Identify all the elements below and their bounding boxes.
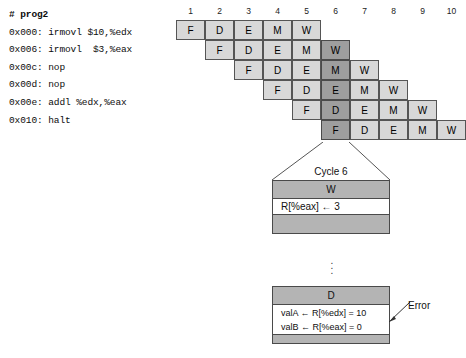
pipeline-stage-cell: F — [263, 80, 292, 100]
cycle-column-header: 7 — [350, 6, 379, 16]
decode-stage-name: D — [273, 287, 389, 305]
pipeline-stage-cell: W — [350, 60, 379, 80]
cycle-column-header: 9 — [408, 6, 437, 16]
decode-stage-detail-box: D valA ← R[%edx] = 10 valB ← R[%eax] = 0 — [272, 286, 390, 344]
code-line: 0x000: irmovl $10,%edx — [9, 24, 179, 42]
decode-valA-line: valA ← R[%edx] = 10 — [273, 305, 389, 321]
code-line: 0x00c: nop — [9, 59, 179, 77]
pipeline-diagram: 1 2 3 4 5 6 7 8 9 10 F D E M W F D E M W… — [176, 6, 464, 148]
pipeline-stage-cell: F — [292, 100, 321, 120]
ellipsis-indicator: . . . — [327, 258, 337, 273]
ellipsis-dot: . — [327, 268, 337, 273]
cycle-detail-label: Cycle 6 — [272, 166, 390, 177]
pipeline-stage-cell: E — [263, 40, 292, 60]
writeback-stage-name: W — [273, 181, 389, 199]
pipeline-stage-cell: M — [379, 100, 408, 120]
pipeline-stage-cell: F — [234, 60, 263, 80]
cycle-column-header: 6 — [321, 6, 350, 16]
cycle-column-header: 3 — [234, 6, 263, 16]
pipeline-stage-cell: F — [176, 20, 205, 40]
pipeline-stage-cell: F — [205, 40, 234, 60]
cycle-column-header: 5 — [292, 6, 321, 16]
code-line: 0x006: irmovl $3,%eax — [9, 41, 179, 59]
pipeline-stage-cell: D — [350, 120, 379, 140]
page-caption — [6, 348, 226, 356]
pipeline-stage-cell-highlighted: D — [321, 100, 350, 120]
writeback-stage-filler — [273, 215, 389, 233]
pipeline-stage-cell: E — [350, 100, 379, 120]
program-listing: # prog2 0x000: irmovl $10,%edx 0x006: ir… — [9, 6, 179, 129]
pipeline-stage-cell: D — [292, 80, 321, 100]
decode-valB-line: valB ← R[%eax] = 0 — [273, 321, 389, 335]
pipeline-stage-cell: E — [234, 20, 263, 40]
cycle-column-header: 4 — [263, 6, 292, 16]
pipeline-stage-cell-highlighted: W — [321, 40, 350, 60]
pipeline-stage-cell: M — [350, 80, 379, 100]
code-line: 0x00d: nop — [9, 76, 179, 94]
pipeline-stage-cell-highlighted: M — [321, 60, 350, 80]
decode-stage-filler — [273, 335, 389, 343]
pipeline-stage-cell: M — [408, 120, 437, 140]
pipeline-stage-cell: W — [379, 80, 408, 100]
cycle-column-header: 8 — [379, 6, 408, 16]
decode-stage-body: valA ← R[%edx] = 10 valB ← R[%eax] = 0 — [273, 305, 389, 335]
pipeline-stage-cell: E — [379, 120, 408, 140]
pipeline-stage-cell: E — [292, 60, 321, 80]
cycle-column-header: 2 — [205, 6, 234, 16]
cycle-column-header: 1 — [176, 6, 205, 16]
program-title: # prog2 — [9, 6, 179, 24]
pipeline-stage-cell: D — [234, 40, 263, 60]
pipeline-stage-cell: D — [205, 20, 234, 40]
writeback-stage-body: R[%eax] ← 3 — [273, 199, 389, 215]
pipeline-stage-cell: W — [292, 20, 321, 40]
cycle-column-header: 10 — [437, 6, 466, 16]
code-line: 0x010: halt — [9, 112, 179, 130]
pipeline-stage-cell-highlighted: F — [321, 120, 350, 140]
pipeline-stage-cell: M — [263, 20, 292, 40]
writeback-stage-detail-box: W R[%eax] ← 3 — [272, 180, 390, 234]
pipeline-stage-cell: W — [408, 100, 437, 120]
error-annotation-label: Error — [408, 300, 430, 311]
pipeline-stage-cell: D — [263, 60, 292, 80]
pipeline-stage-cell: W — [437, 120, 466, 140]
code-line: 0x00e: addl %edx,%eax — [9, 94, 179, 112]
pipeline-stage-cell-highlighted: E — [321, 80, 350, 100]
pipeline-stage-cell: M — [292, 40, 321, 60]
